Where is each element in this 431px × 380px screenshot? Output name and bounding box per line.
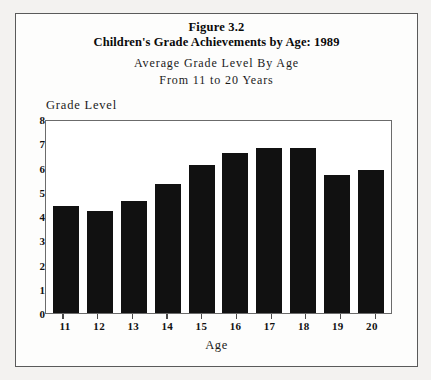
- y-axis-tick-label: 4: [27, 211, 45, 223]
- x-axis-tick-label: 19: [325, 320, 351, 332]
- x-axis-tick-mark: [132, 314, 133, 319]
- bar: [87, 211, 113, 313]
- x-axis-tick-mark: [62, 314, 63, 319]
- y-axis-tick-label: 1: [27, 284, 45, 296]
- x-axis-tick-label: 15: [188, 320, 214, 332]
- bar: [358, 170, 384, 313]
- bar: [121, 201, 147, 313]
- x-axis-tick-mark: [201, 314, 202, 319]
- bar: [222, 153, 248, 313]
- y-axis-tick-label: 3: [27, 235, 45, 247]
- x-axis-tick-label: 13: [120, 320, 146, 332]
- y-axis-title: Grade Level: [46, 98, 117, 113]
- y-axis-tick-label: 8: [27, 114, 45, 126]
- x-axis-tick-mark: [271, 314, 272, 319]
- figure-title: Children's Grade Achievements by Age: 19…: [16, 35, 417, 51]
- x-axis-tick-mark: [340, 314, 341, 319]
- bar: [155, 184, 181, 313]
- bar: [53, 206, 79, 313]
- figure-number-label: Figure 3.2: [16, 20, 417, 35]
- bar: [189, 165, 215, 313]
- x-axis-tick-mark: [97, 314, 98, 319]
- x-axis-tick-label: 18: [291, 320, 317, 332]
- x-axis-tick-mark: [305, 314, 306, 319]
- figure-title-block: Figure 3.2 Children's Grade Achievements…: [16, 14, 417, 88]
- x-axis-tick-label: 16: [223, 320, 249, 332]
- y-axis-tick-labels: 012345678: [27, 114, 45, 320]
- plot-area: [45, 120, 392, 314]
- x-axis-tick-label: 12: [86, 320, 112, 332]
- x-axis-tick-label: 20: [359, 320, 385, 332]
- bar-series: [46, 121, 391, 313]
- x-axis-tick-mark: [236, 314, 237, 319]
- x-axis-tick-mark: [375, 314, 376, 319]
- bar: [256, 148, 282, 313]
- x-axis-tick-label: 11: [52, 320, 78, 332]
- y-axis-tick-label: 0: [27, 308, 45, 320]
- y-axis-tick-label: 6: [27, 163, 45, 175]
- bar: [324, 175, 350, 313]
- x-axis-tick-labels: 11121314151617181920: [45, 320, 392, 332]
- x-axis-tick-label: 17: [257, 320, 283, 332]
- y-axis-tick-label: 5: [27, 187, 45, 199]
- y-axis-tick-label: 2: [27, 260, 45, 272]
- x-axis-tick-label: 14: [154, 320, 180, 332]
- x-axis-tick-mark: [166, 314, 167, 319]
- y-axis-tick-label: 7: [27, 138, 45, 150]
- bar: [290, 148, 316, 313]
- figure-subtitle-line1: Average Grade Level By Age: [16, 55, 417, 72]
- x-axis-title: Age: [16, 338, 417, 353]
- figure-subtitle-line2: From 11 to 20 Years: [16, 73, 417, 89]
- figure-frame: Figure 3.2 Children's Grade Achievements…: [15, 13, 418, 367]
